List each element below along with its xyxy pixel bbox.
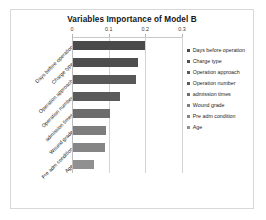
gridline — [182, 37, 183, 173]
legend-label: Wound grade — [193, 103, 225, 108]
bar-row — [72, 88, 182, 105]
legend-swatch-icon — [187, 60, 190, 63]
bar[interactable] — [73, 109, 110, 118]
legend-swatch-icon — [187, 71, 190, 74]
bar[interactable] — [73, 160, 94, 169]
legend-swatch-icon — [187, 93, 190, 96]
legend-item[interactable]: Pre adm condition — [187, 112, 266, 121]
chart-frame: Variables Importance of Model B Days bef… — [10, 9, 254, 209]
legend-label: admission times — [193, 92, 231, 97]
bar[interactable] — [73, 143, 105, 152]
bar-row — [72, 105, 182, 122]
bar-row — [72, 54, 182, 71]
legend-item[interactable]: Wound grade — [187, 101, 266, 110]
chart-title: Variables Importance of Model B — [11, 15, 253, 24]
axis-tick-label: 0.3 — [178, 26, 186, 32]
legend-label: Charge type — [193, 59, 222, 64]
legend-swatch-icon — [187, 82, 190, 85]
bar-row — [72, 122, 182, 139]
legend-swatch-icon — [187, 104, 190, 107]
legend-label: Pre adm condition — [193, 114, 236, 119]
axis-tick-label: 0.2 — [142, 26, 150, 32]
bar-row — [72, 156, 182, 173]
legend-item[interactable]: Operation approach — [187, 68, 266, 77]
legend-label: Days before operation — [193, 48, 245, 53]
axis-tick-label: 0 — [71, 26, 74, 32]
legend-swatch-icon — [187, 115, 190, 118]
axis-tick-label: 0.1 — [105, 26, 113, 32]
legend-label: Operation approach — [193, 70, 240, 75]
bar[interactable] — [73, 92, 120, 101]
legend-item[interactable]: Charge type — [187, 57, 266, 66]
axis-tick-mark — [182, 34, 183, 37]
legend-item[interactable]: Age — [187, 123, 266, 132]
bar-row — [72, 37, 182, 54]
category-axis-labels: Days before operationCharge typeOperatio… — [11, 37, 72, 197]
legend-label: Operation number — [193, 81, 236, 86]
bar[interactable] — [73, 126, 106, 135]
legend-label: Age — [193, 125, 202, 130]
bar[interactable] — [73, 75, 136, 84]
legend-swatch-icon — [187, 126, 190, 129]
bar-row — [72, 139, 182, 156]
bar[interactable] — [73, 41, 145, 50]
bar[interactable] — [73, 58, 138, 67]
legend-swatch-icon — [187, 49, 190, 52]
legend-item[interactable]: Operation number — [187, 79, 266, 88]
chart-legend: Days before operationCharge typeOperatio… — [187, 46, 266, 134]
legend-item[interactable]: Days before operation — [187, 46, 266, 55]
bar-row — [72, 71, 182, 88]
legend-item[interactable]: admission times — [187, 90, 266, 99]
plot-area: 00.10.20.3 — [72, 37, 182, 173]
